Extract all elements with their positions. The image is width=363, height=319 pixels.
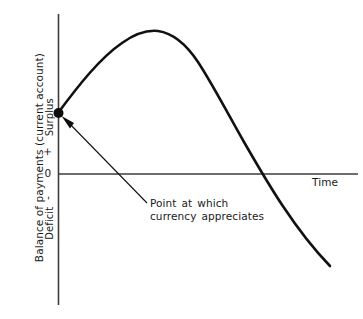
annotation-line-1: Point at which [150, 197, 264, 210]
chart-figure: Balance of payments (current account) Su… [0, 0, 363, 319]
x-axis-label-time: Time [312, 176, 338, 189]
y-tick-label-deficit: Deficit [44, 197, 57, 249]
annotation-leader-line [66, 120, 147, 203]
y-tick-label-plus: + [41, 132, 55, 172]
balance-of-payments-curve [58, 31, 330, 266]
annotation-line-2: currency appreciates [150, 210, 264, 223]
appreciation-annotation-text: Point at which currency appreciates [150, 197, 264, 223]
